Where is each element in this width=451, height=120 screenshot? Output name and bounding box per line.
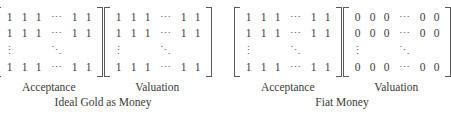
matrix-row: 1 1 1 ⋯ 1 1 [111, 25, 205, 41]
matrix-pair-fiat-money: 1 1 1 ⋯ 1 1 1 1 1 ⋯ 1 [234, 7, 451, 77]
matrix-cell: 1 [32, 25, 46, 41]
matrix-cell-blank [191, 41, 205, 59]
matrix-row: 0 0 0 ⋯ 0 0 [350, 25, 444, 41]
matrix-cell-blank [82, 41, 96, 59]
matrix-cell: 1 [177, 59, 191, 75]
matrix-cell-blank [127, 41, 141, 59]
matrix-acceptance-fiat: 1 1 1 ⋯ 1 1 1 1 1 ⋯ 1 [234, 7, 342, 77]
horizontal-ellipsis-icon: ⋯ [285, 25, 307, 41]
matrix-cell: 0 [366, 9, 380, 25]
matrix-cell: 1 [32, 9, 46, 25]
matrix-cell: 0 [350, 25, 366, 41]
matrix-label-valuation: Valuation [342, 80, 451, 94]
matrix-grid: 1 1 1 ⋯ 1 1 1 1 1 ⋯ 1 [111, 9, 205, 75]
horizontal-ellipsis-icon: ⋯ [46, 25, 68, 41]
matrix-label-acceptance: Acceptance [234, 80, 343, 94]
matrix-cell: 1 [257, 59, 271, 75]
matrix-cell-blank [68, 41, 82, 59]
matrix-cell: 1 [141, 25, 155, 41]
matrix-cell-blank [257, 41, 271, 59]
matrix-cell: 1 [241, 9, 257, 25]
horizontal-ellipsis-icon: ⋯ [155, 59, 177, 75]
matrix-cell: 1 [271, 9, 285, 25]
matrix-row-ellipsis: ⋮ ⋱ [350, 41, 444, 59]
horizontal-ellipsis-icon: ⋯ [46, 59, 68, 75]
matrix-cell: 0 [416, 59, 430, 75]
matrix-label-row: Acceptance Valuation [0, 80, 212, 94]
matrix-cell-blank [366, 41, 380, 59]
matrix-group-ideal-gold: 1 1 1 ⋯ 1 1 1 1 1 ⋯ 1 [0, 0, 212, 109]
matrix-cell: 1 [307, 25, 321, 41]
horizontal-ellipsis-icon: ⋯ [285, 9, 307, 25]
matrix-grid: 0 0 0 ⋯ 0 0 0 0 0 ⋯ 0 [350, 9, 444, 75]
matrix-cell: 1 [177, 9, 191, 25]
horizontal-ellipsis-icon: ⋯ [285, 59, 307, 75]
matrix-cell: 1 [68, 25, 82, 41]
matrix-cell: 1 [127, 59, 141, 75]
vertical-ellipsis-icon: ⋮ [111, 41, 127, 59]
matrix-cell-blank [321, 41, 335, 59]
matrix-cell: 0 [366, 59, 380, 75]
matrix-cell: 1 [141, 59, 155, 75]
matrix-acceptance-gold: 1 1 1 ⋯ 1 1 1 1 1 ⋯ 1 [0, 7, 103, 77]
matrix-pair-ideal-gold: 1 1 1 ⋯ 1 1 1 1 1 ⋯ 1 [0, 7, 212, 77]
matrix-cell: 1 [68, 59, 82, 75]
matrix-cell-blank [177, 41, 191, 59]
matrix-cell-blank [32, 41, 46, 59]
matrix-cell-blank [271, 41, 285, 59]
matrix-cell: 1 [18, 9, 32, 25]
matrix-cell: 1 [271, 25, 285, 41]
diagonal-ellipsis-icon: ⋱ [394, 41, 416, 59]
matrix-cell-blank [380, 41, 394, 59]
matrix-valuation-fiat: 0 0 0 ⋯ 0 0 0 0 0 ⋯ 0 [343, 7, 451, 77]
horizontal-ellipsis-icon: ⋯ [155, 25, 177, 41]
matrix-groups-row: 1 1 1 ⋯ 1 1 1 1 1 ⋯ 1 [0, 0, 445, 109]
matrix-cell: 1 [111, 25, 127, 41]
matrix-cell: 0 [430, 25, 444, 41]
matrix-cell: 1 [2, 25, 18, 41]
vertical-ellipsis-icon: ⋮ [241, 41, 257, 59]
matrix-cell: 0 [350, 9, 366, 25]
matrix-group-fiat-money: 1 1 1 ⋯ 1 1 1 1 1 ⋯ 1 [234, 0, 451, 109]
matrix-row-ellipsis: ⋮ ⋱ [111, 41, 205, 59]
diagonal-ellipsis-icon: ⋱ [285, 41, 307, 59]
group-caption-fiat-money: Fiat Money [234, 95, 451, 109]
matrix-cell: 0 [350, 59, 366, 75]
matrix-cell: 1 [257, 25, 271, 41]
matrix-row: 1 1 1 ⋯ 1 1 [2, 9, 96, 25]
matrix-cell: 1 [321, 59, 335, 75]
matrix-grid: 1 1 1 ⋯ 1 1 1 1 1 ⋯ 1 [241, 9, 335, 75]
matrix-row: 1 1 1 ⋯ 1 1 [241, 9, 335, 25]
matrix-row: 1 1 1 ⋯ 1 1 [111, 59, 205, 75]
matrix-cell: 1 [257, 9, 271, 25]
matrix-cell: 1 [307, 9, 321, 25]
matrix-cell: 1 [68, 9, 82, 25]
matrix-cell: 0 [416, 25, 430, 41]
matrix-cell: 1 [307, 59, 321, 75]
matrix-cell: 1 [141, 9, 155, 25]
matrix-cell: 1 [191, 25, 205, 41]
matrix-row: 1 1 1 ⋯ 1 1 [111, 9, 205, 25]
diagonal-ellipsis-icon: ⋱ [155, 41, 177, 59]
matrix-cell: 0 [416, 9, 430, 25]
matrix-valuation-gold: 1 1 1 ⋯ 1 1 1 1 1 ⋯ 1 [104, 7, 212, 77]
matrix-row: 1 1 1 ⋯ 1 1 [241, 25, 335, 41]
matrix-row: 1 1 1 ⋯ 1 1 [2, 25, 96, 41]
matrix-cell: 0 [430, 59, 444, 75]
matrix-row-ellipsis: ⋮ ⋱ [2, 41, 96, 59]
matrix-cell: 1 [82, 9, 96, 25]
matrix-row-ellipsis: ⋮ ⋱ [241, 41, 335, 59]
matrix-cell: 1 [177, 25, 191, 41]
matrix-cell: 1 [127, 9, 141, 25]
matrix-row: 1 1 1 ⋯ 1 1 [2, 59, 96, 75]
matrix-cell: 0 [430, 9, 444, 25]
diagonal-ellipsis-icon: ⋱ [46, 41, 68, 59]
matrix-cell: 1 [82, 59, 96, 75]
horizontal-ellipsis-icon: ⋯ [394, 59, 416, 75]
matrix-cell: 1 [111, 59, 127, 75]
matrix-cell: 1 [127, 25, 141, 41]
matrix-label-row: Acceptance Valuation [234, 80, 451, 94]
matrix-cell: 1 [321, 25, 335, 41]
matrix-cell-blank [18, 41, 32, 59]
